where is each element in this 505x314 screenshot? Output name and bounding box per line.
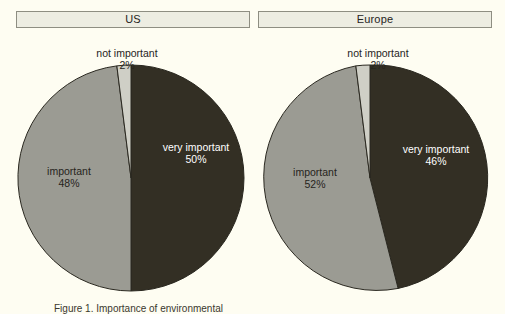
slice-label-us-important-value: 48% bbox=[18, 177, 120, 189]
slice-label-us-not-important: not important 2% bbox=[62, 47, 192, 71]
slice-label-europe-important-name: important bbox=[293, 166, 337, 178]
slice-label-us-not-important-name: not important bbox=[96, 47, 157, 59]
slice-label-europe-not-important-name: not important bbox=[347, 47, 408, 59]
slice-label-us-not-important-value: 2% bbox=[62, 59, 192, 71]
figure-caption: Figure 1. Importance of environmental bbox=[54, 303, 223, 314]
slice-label-us-important-name: important bbox=[47, 165, 91, 177]
pie-slice-us-very-important bbox=[131, 65, 244, 291]
slice-label-europe-not-important: not important 2% bbox=[313, 47, 443, 71]
slice-label-europe-not-important-value: 2% bbox=[313, 59, 443, 71]
slice-label-us-very-important-value: 50% bbox=[146, 153, 246, 165]
slice-label-europe-very-important-value: 46% bbox=[386, 155, 486, 167]
slice-label-us-very-important: very important 50% bbox=[146, 141, 246, 165]
slice-label-europe-important: important 52% bbox=[264, 166, 366, 190]
slice-label-europe-very-important-name: very important bbox=[403, 143, 470, 155]
slice-label-us-very-important-name: very important bbox=[163, 141, 230, 153]
slice-label-europe-very-important: very important 46% bbox=[386, 143, 486, 167]
slice-label-europe-important-value: 52% bbox=[264, 178, 366, 190]
slice-label-us-important: important 48% bbox=[18, 165, 120, 189]
